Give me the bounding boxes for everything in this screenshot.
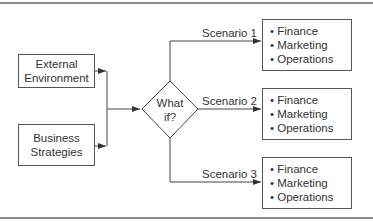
decision-diamond-label: What if? <box>150 96 190 124</box>
input-box-line: Environment <box>24 71 89 85</box>
scenario-item: • Marketing <box>270 38 351 52</box>
input-box-business-strategies: Business Strategies <box>18 124 95 166</box>
input-box-line: External <box>35 57 77 71</box>
scenario-item: • Finance <box>270 24 351 38</box>
scenario-item: • Marketing <box>270 176 351 190</box>
scenario-item: • Operations <box>270 52 351 66</box>
scenario-item: • Operations <box>270 121 351 135</box>
input-box-line: Business <box>33 131 80 145</box>
scenario-item: • Finance <box>270 162 351 176</box>
scenario-item: • Marketing <box>270 107 351 121</box>
scenario-label-3: Scenario 3 <box>202 167 257 181</box>
input-box-line: Strategies <box>31 145 83 159</box>
scenario-label-1: Scenario 1 <box>202 26 257 40</box>
scenario-box-2: • Finance • Marketing • Operations <box>262 88 352 140</box>
decision-line: What <box>150 96 190 110</box>
scenario-box-1: • Finance • Marketing • Operations <box>262 19 352 71</box>
scenario-item: • Operations <box>270 190 351 204</box>
input-box-external-environment: External Environment <box>18 54 95 88</box>
scenario-box-3: • Finance • Marketing • Operations <box>262 157 352 209</box>
scenario-item: • Finance <box>270 93 351 107</box>
decision-line: if? <box>150 110 190 124</box>
scenario-label-2: Scenario 2 <box>202 94 257 108</box>
